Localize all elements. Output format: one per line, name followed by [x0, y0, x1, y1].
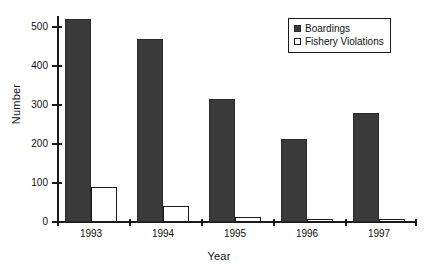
y-axis-tick-label: 0: [18, 217, 48, 227]
bar-fishery-violations-1993: [91, 187, 117, 222]
legend-label-boardings: Boardings: [305, 23, 350, 34]
bar-fishery-violations-1995: [235, 217, 261, 222]
y-axis-tick-label: 200: [18, 139, 48, 149]
y-axis-tick-label: 300: [18, 100, 48, 110]
legend-label-fishery-violations: Fishery Violations: [305, 36, 384, 47]
chart-legend: Boardings Fishery Violations: [288, 18, 391, 53]
x-axis-title: Year: [0, 250, 438, 262]
bar-fishery-violations-1994: [163, 206, 189, 222]
x-axis-tick-label-1997: 1997: [354, 228, 404, 240]
bar-fishery-violations-1996: [307, 219, 333, 222]
legend-item-boardings: Boardings: [294, 22, 384, 35]
x-axis-tick-label-1994: 1994: [138, 228, 188, 240]
bar-boardings-1996: [281, 139, 307, 222]
x-axis-tick-label-1996: 1996: [282, 228, 332, 240]
bar-boardings-1995: [209, 99, 235, 222]
legend-item-fishery-violations: Fishery Violations: [294, 35, 384, 48]
bar-boardings-1997: [353, 113, 379, 222]
x-axis-tick-label-1993: 1993: [66, 228, 116, 240]
outlined-square-icon: [294, 38, 301, 45]
bar-fishery-violations-1997: [379, 219, 405, 223]
x-axis-tick-label-1995: 1995: [210, 228, 260, 240]
bar-chart: Number 0100200300400500 1993199419951996…: [0, 0, 438, 274]
filled-square-icon: [294, 25, 301, 32]
bar-boardings-1994: [137, 39, 163, 222]
y-axis-tick-label: 500: [18, 22, 48, 32]
y-axis-tick-label: 100: [18, 178, 48, 188]
y-axis-tick-label: 400: [18, 61, 48, 71]
bar-boardings-1993: [65, 19, 91, 222]
